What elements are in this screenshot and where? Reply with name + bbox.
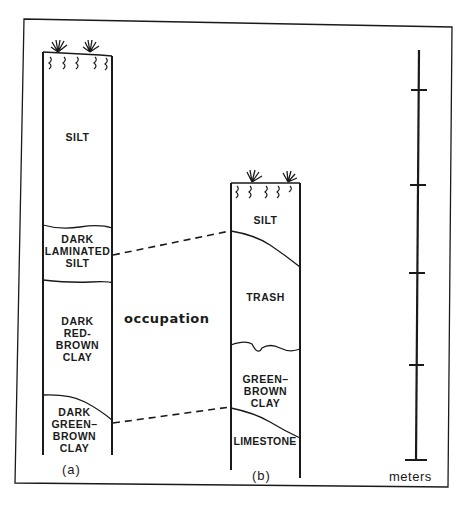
grass-icon xyxy=(247,170,297,182)
correlation-line-upper xyxy=(113,231,230,255)
occupation-label: occupation xyxy=(124,311,210,326)
layer-b-trash: TRASH xyxy=(231,291,300,303)
layer-a-dark-green-brown-clay: DARK GREEN– BROWN CLAY xyxy=(40,406,109,454)
layer-b-silt: SILT xyxy=(231,214,300,226)
caption-a: (a) xyxy=(62,462,81,477)
scale-unit-label: meters xyxy=(389,469,432,484)
layer-b-limestone: LIMESTONE xyxy=(230,435,300,447)
correlation-line-lower xyxy=(113,407,230,423)
caption-b: (b) xyxy=(252,468,271,483)
layer-b-green-brown-clay: GREEN– BROWN CLAY xyxy=(231,373,300,409)
layer-a-dark-laminated-silt: DARK LAMINATED SILT xyxy=(43,233,112,269)
scale-bar xyxy=(405,50,427,460)
layer-a-silt: SILT xyxy=(43,131,112,143)
grass-icon xyxy=(51,40,99,52)
layer-a-dark-red-brown-clay: DARK RED-BROWN CLAY xyxy=(43,315,112,363)
